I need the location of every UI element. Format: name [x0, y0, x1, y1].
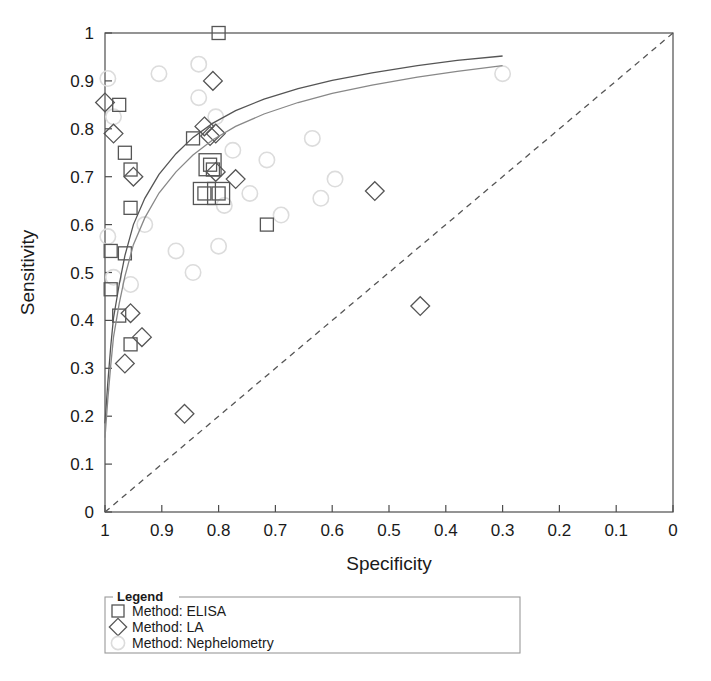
marker-square	[124, 201, 137, 214]
marker-circle	[168, 243, 183, 258]
x-axis-tick-label: 0.5	[377, 521, 401, 540]
marker-diamond	[175, 404, 194, 423]
sroc-curve-lower	[105, 66, 503, 438]
y-axis-tick-label: 0.6	[70, 216, 94, 235]
legend-item-label: Method: Nephelometry	[132, 635, 274, 651]
roc-chart-page: 10.90.80.70.60.50.40.30.20.1000.10.20.30…	[0, 0, 711, 681]
marker-diamond	[109, 618, 126, 635]
marker-diamond	[411, 297, 430, 316]
x-axis-title: Specificity	[346, 553, 432, 574]
sroc-plot: 10.90.80.70.60.50.40.30.20.1000.10.20.30…	[0, 0, 711, 681]
marker-circle	[327, 171, 342, 186]
y-axis-tick-label: 0.8	[70, 120, 94, 139]
marker-circle	[242, 186, 257, 201]
y-axis-tick-label: 1	[85, 24, 94, 43]
legend-item-diamond[interactable]: Method: LA	[109, 618, 204, 635]
y-axis-tick-label: 0.1	[70, 455, 94, 474]
marker-circle	[313, 191, 328, 206]
legend-item-label: Method: ELISA	[132, 603, 227, 619]
marker-circle	[259, 152, 274, 167]
sroc-curve-upper	[105, 56, 503, 423]
series-circle	[100, 56, 510, 292]
marker-diamond	[121, 304, 140, 323]
y-axis-tick-label: 0.9	[70, 72, 94, 91]
x-axis-tick-label: 0	[668, 521, 677, 540]
marker-circle	[185, 265, 200, 280]
x-axis-tick-label: 0.1	[604, 521, 628, 540]
x-axis-tick-label: 0.9	[150, 521, 174, 540]
marker-square	[112, 605, 124, 617]
x-axis-tick-label: 1	[100, 521, 109, 540]
marker-diamond	[133, 328, 152, 347]
series-square	[104, 27, 273, 351]
marker-circle	[151, 66, 166, 81]
marker-circle	[273, 207, 288, 222]
y-axis-tick-label: 0.5	[70, 264, 94, 283]
x-axis-tick-label: 0.6	[320, 521, 344, 540]
marker-diamond	[116, 354, 135, 373]
marker-square	[204, 158, 217, 171]
legend-item-square[interactable]: Method: ELISA	[112, 603, 227, 619]
marker-diamond	[204, 72, 223, 91]
marker-circle	[211, 238, 226, 253]
marker-square	[198, 187, 211, 200]
x-axis-tick-label: 0.2	[548, 521, 572, 540]
marker-circle	[111, 636, 124, 649]
marker-diamond	[206, 163, 225, 182]
marker-circle	[123, 277, 138, 292]
marker-circle	[100, 229, 115, 244]
legend-item-circle[interactable]: Method: Nephelometry	[111, 635, 273, 651]
x-axis-tick-label: 0.7	[264, 521, 288, 540]
marker-diamond	[365, 182, 384, 201]
marker-square	[260, 218, 273, 231]
marker-square	[118, 146, 131, 159]
legend-item-label: Method: LA	[132, 619, 204, 635]
marker-circle	[495, 66, 510, 81]
y-axis-tick-label: 0.3	[70, 359, 94, 378]
marker-circle	[305, 131, 320, 146]
marker-circle	[100, 71, 115, 86]
series-diamond	[96, 72, 430, 424]
y-axis-tick-label: 0	[85, 503, 94, 522]
y-axis-tick-label: 0.2	[70, 407, 94, 426]
marker-diamond	[104, 124, 123, 143]
marker-circle	[191, 90, 206, 105]
y-axis-tick-label: 0.7	[70, 168, 94, 187]
marker-circle	[225, 143, 240, 158]
marker-diamond	[124, 167, 143, 186]
marker-circle	[191, 56, 206, 71]
marker-square	[104, 244, 117, 257]
y-axis-tick-label: 0.4	[70, 311, 94, 330]
diagonal-reference-line	[105, 33, 673, 512]
x-axis-tick-label: 0.8	[207, 521, 231, 540]
legend-title: Legend	[117, 589, 163, 604]
x-axis-tick-label: 0.4	[434, 521, 458, 540]
x-axis-tick-label: 0.3	[491, 521, 515, 540]
y-axis-title: Sensitivity	[17, 229, 38, 315]
